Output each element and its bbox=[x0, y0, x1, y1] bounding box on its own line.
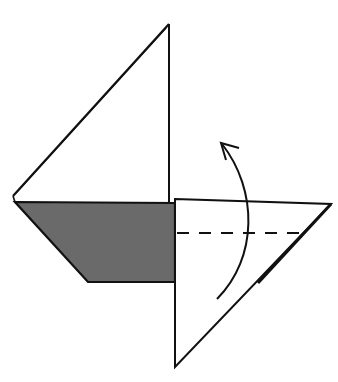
colored-trapezoid-flap bbox=[15, 202, 175, 282]
upper-triangle-flap bbox=[13, 24, 169, 202]
right-triangle-flap bbox=[175, 199, 331, 367]
origami-diagram bbox=[0, 0, 338, 382]
